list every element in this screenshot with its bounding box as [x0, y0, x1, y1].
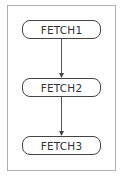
node-label: FETCH2 — [41, 82, 83, 94]
edge-fetch1-fetch2 — [59, 39, 64, 78]
node-label: FETCH3 — [41, 140, 83, 152]
edge-fetch2-fetch3 — [59, 97, 64, 136]
node-fetch3: FETCH3 — [22, 136, 101, 155]
node-fetch1: FETCH1 — [22, 20, 101, 39]
node-label: FETCH1 — [41, 24, 83, 36]
node-fetch2: FETCH2 — [22, 78, 101, 97]
